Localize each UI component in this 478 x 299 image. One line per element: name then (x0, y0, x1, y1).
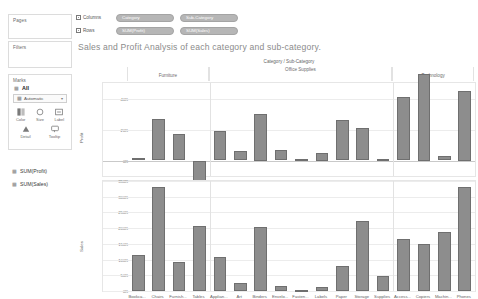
bar-mark[interactable] (377, 159, 390, 161)
measure-card-profit-label: SUM(Profit) (20, 168, 47, 174)
bar-mark[interactable] (418, 244, 431, 291)
size-icon (35, 107, 44, 116)
gridline (103, 161, 475, 162)
category-header-caption: Category / Sub-Category (102, 59, 476, 64)
x-axis-label[interactable]: Binders (249, 294, 269, 299)
bar-mark[interactable] (418, 74, 431, 161)
measure-cards-list: ▩ SUM(Profit) ▩ SUM(Sales) (12, 168, 74, 194)
x-axis-label[interactable]: Tables (188, 294, 208, 299)
bar-mark[interactable] (458, 187, 471, 291)
marks-card[interactable]: Marks ▩ All ▩ Automatic ▾ Color (8, 74, 72, 150)
bar-mark[interactable] (356, 128, 369, 161)
marks-color-button[interactable]: Color (12, 107, 30, 122)
bar-mark[interactable] (173, 134, 186, 160)
marks-size-button[interactable]: Size (31, 107, 49, 122)
marks-tooltip-button[interactable]: Tooltip (46, 124, 64, 139)
bar-mark[interactable] (336, 266, 349, 291)
bar-mark[interactable] (214, 131, 227, 160)
x-axis-label[interactable]: Art (229, 294, 249, 299)
bar-mark[interactable] (295, 290, 308, 292)
measure-card-sales[interactable]: ▩ SUM(Sales) (12, 181, 74, 187)
bar-mark[interactable] (316, 153, 329, 161)
rows-shelf[interactable]: Rows SUM(Profit) SUM(Sales) (76, 25, 476, 36)
bar-mark[interactable] (438, 156, 451, 161)
bar-mark[interactable] (397, 239, 410, 291)
category-band-furniture[interactable]: Furniture (127, 67, 209, 81)
x-axis-label[interactable]: Labels (311, 294, 331, 299)
bar-mark[interactable] (397, 97, 410, 161)
x-axis-label[interactable]: Storage (352, 294, 372, 299)
bar-mark[interactable] (193, 226, 206, 291)
bar-mark[interactable] (132, 255, 145, 291)
filters-card[interactable]: Filters (8, 41, 72, 68)
x-axis-label[interactable]: Supplies (372, 294, 392, 299)
columns-shelf[interactable]: Columns Category Sub-Category (76, 12, 476, 23)
pill-category[interactable]: Category (116, 14, 174, 22)
columns-grid-icon (76, 15, 81, 20)
category-band-technology[interactable]: Technology (392, 67, 474, 81)
marks-color-label: Color (16, 117, 26, 122)
x-axis-label[interactable]: Fasten... (290, 294, 310, 299)
profit-chart-pane[interactable]: 40K20K0K (102, 82, 476, 177)
marks-detail-button[interactable]: Detail (17, 124, 35, 139)
tooltip-icon (50, 124, 59, 133)
sales-axis-title: Sales (79, 241, 84, 252)
pages-card[interactable]: Pages (8, 14, 72, 39)
category-band-office-supplies[interactable]: Office Supplies (209, 67, 393, 81)
bar-mark[interactable] (356, 221, 369, 291)
category-band-label: Technology (393, 67, 473, 78)
bar-mark[interactable] (173, 262, 186, 291)
x-axis-label[interactable]: Envelo... (270, 294, 290, 299)
bar-mark[interactable] (152, 119, 165, 161)
mark-type-value: Automatic (24, 96, 44, 101)
x-axis-label[interactable]: Paper (331, 294, 351, 299)
x-axis-label[interactable]: Applian... (209, 294, 229, 299)
x-axis-label[interactable]: Chairs (147, 294, 167, 299)
mark-buttons-group: Color Size Label (9, 103, 71, 139)
x-axis-label[interactable]: Furnish... (168, 294, 188, 299)
category-separator (210, 83, 211, 176)
sales-chart-pane[interactable]: 350K300K250K200K150K100K50K0K (102, 180, 476, 292)
marks-bar-icon: ▩ (14, 86, 19, 91)
mark-type-icon: ▩ (17, 96, 22, 101)
shelf-area: Columns Category Sub-Category Rows SUM(P… (76, 12, 476, 38)
mark-type-dropdown[interactable]: ▩ Automatic ▾ (13, 94, 67, 103)
category-separator (393, 83, 394, 176)
pill-sum-sales[interactable]: SUM(Sales) (180, 27, 238, 35)
columns-shelf-label: Columns (83, 15, 101, 20)
bar-mark[interactable] (336, 120, 349, 160)
marks-all-row[interactable]: ▩ All (9, 83, 71, 91)
rows-grid-icon (76, 28, 81, 33)
bar-mark[interactable] (316, 287, 329, 291)
bar-mark[interactable] (234, 151, 247, 160)
measure-card-profit[interactable]: ▩ SUM(Profit) (12, 168, 74, 174)
bar-mark[interactable] (234, 283, 247, 291)
marks-label-button[interactable]: Label (50, 107, 68, 122)
gridline (103, 181, 475, 182)
bar-mark[interactable] (214, 257, 227, 291)
detail-icon (21, 124, 30, 133)
page-title: Sales and Profit Analysis of each catego… (76, 40, 476, 52)
bar-mark[interactable] (377, 276, 390, 291)
label-icon (55, 107, 64, 116)
color-icon (16, 107, 25, 116)
x-axis-label[interactable]: Machin... (433, 294, 453, 299)
bar-mark[interactable] (295, 159, 308, 161)
bar-mark[interactable] (132, 158, 145, 160)
bar-mark[interactable] (438, 232, 451, 291)
bar-mark[interactable] (275, 286, 288, 291)
bar-mark[interactable] (254, 227, 267, 291)
bar-mark[interactable] (275, 150, 288, 161)
x-axis-label[interactable]: Copiers (413, 294, 433, 299)
x-axis-label[interactable]: Bookca... (127, 294, 147, 299)
bar-mark[interactable] (152, 187, 165, 291)
x-axis-labels: Bookca...ChairsFurnish...TablesApplian..… (102, 293, 476, 299)
bar-mark[interactable] (458, 91, 471, 161)
pill-sum-profit[interactable]: SUM(Profit) (116, 27, 174, 35)
measure-bar-icon: ▩ (12, 182, 17, 187)
pill-sub-category[interactable]: Sub-Category (180, 14, 238, 22)
x-axis-label[interactable]: Phones (454, 294, 474, 299)
x-axis-label[interactable]: Access... (392, 294, 412, 299)
bar-mark[interactable] (254, 114, 267, 161)
marks-label: Marks (9, 75, 71, 83)
